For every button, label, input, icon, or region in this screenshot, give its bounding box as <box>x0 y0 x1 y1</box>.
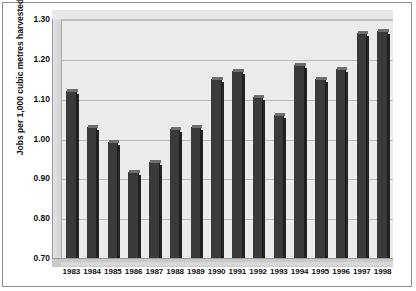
x-axis-tick-label: 1983 <box>62 267 80 276</box>
bar-body <box>357 33 367 258</box>
bar-body <box>170 129 180 258</box>
bar-top-face <box>67 89 77 92</box>
bar-side-face <box>326 82 328 258</box>
bar-top-face <box>275 113 285 116</box>
bar-1985[interactable] <box>108 142 118 258</box>
bar-1993[interactable] <box>274 115 284 258</box>
bar-body <box>211 79 221 258</box>
x-axis-tick-label: 1993 <box>270 267 288 276</box>
bar-side-face <box>305 68 307 258</box>
bar-1987[interactable] <box>149 162 159 258</box>
x-axis-tick-label: 1995 <box>311 267 329 276</box>
bar-top-face <box>233 69 243 72</box>
plot-top-wall <box>52 10 393 19</box>
bar-body <box>232 71 242 258</box>
bar-top-face <box>254 95 264 98</box>
bars-layer <box>61 19 393 258</box>
bar-side-face <box>139 175 141 258</box>
bar-body <box>315 79 325 258</box>
bar-top-face <box>192 125 202 128</box>
bar-side-face <box>180 132 182 258</box>
bar-1996[interactable] <box>336 69 346 258</box>
bar-1991[interactable] <box>232 71 242 258</box>
bar-1990[interactable] <box>211 79 221 258</box>
bar-side-face <box>97 130 99 258</box>
y-axis-tick-label: 0.70 <box>33 253 50 263</box>
y-axis-tick-label: 1.20 <box>33 54 50 64</box>
bar-side-face <box>118 145 120 258</box>
x-axis-tick-label: 1985 <box>104 267 122 276</box>
y-axis-tick-label: 1.10 <box>33 94 50 104</box>
bar-chart-figure: Jobs per 1,000 cubic metres harvested 1.… <box>0 0 416 291</box>
y-axis-tick-label: 0.80 <box>33 213 50 223</box>
y-axis-tick-labels: 1.301.201.101.000.900.800.70 <box>22 10 50 258</box>
bar-top-face <box>129 170 139 173</box>
bar-1997[interactable] <box>357 33 367 258</box>
bar-body <box>253 97 263 258</box>
bar-1994[interactable] <box>294 65 304 258</box>
x-axis-tick-label: 1997 <box>353 267 371 276</box>
x-axis-tick-label: 1986 <box>125 267 143 276</box>
bar-top-face <box>88 125 98 128</box>
bar-top-face <box>171 127 181 130</box>
y-axis-tick-label: 1.00 <box>33 134 50 144</box>
bar-side-face <box>367 36 369 258</box>
bar-1986[interactable] <box>128 172 138 258</box>
x-axis-tick-label: 1989 <box>187 267 205 276</box>
bar-1992[interactable] <box>253 97 263 258</box>
bar-body <box>336 69 346 258</box>
bar-top-face <box>337 67 347 70</box>
x-axis-tick-label: 1996 <box>332 267 350 276</box>
x-axis-tick-label: 1987 <box>145 267 163 276</box>
bar-body <box>66 91 76 258</box>
bar-side-face <box>346 72 348 258</box>
plot-floor-front <box>61 262 393 266</box>
bar-body <box>87 127 97 258</box>
bar-side-face <box>388 34 390 258</box>
x-axis-tick-label: 1984 <box>83 267 101 276</box>
bar-1998[interactable] <box>377 31 387 258</box>
bar-1984[interactable] <box>87 127 97 258</box>
bar-body <box>274 115 284 258</box>
bar-top-face <box>109 140 119 143</box>
bar-side-face <box>201 130 203 258</box>
x-axis-tick-label: 1988 <box>166 267 184 276</box>
bar-body <box>191 127 201 258</box>
bar-1988[interactable] <box>170 129 180 258</box>
bar-body <box>128 172 138 258</box>
x-axis-tick-labels: 1983198419851986198719881989199019911992… <box>61 267 393 281</box>
bar-1983[interactable] <box>66 91 76 258</box>
bar-top-face <box>212 77 222 80</box>
bar-body <box>294 65 304 258</box>
bar-top-face <box>295 63 305 66</box>
x-axis-tick-label: 1998 <box>374 267 392 276</box>
bar-top-face <box>150 160 160 163</box>
x-axis-tick-label: 1994 <box>291 267 309 276</box>
y-axis-tick-label: 0.90 <box>33 173 50 183</box>
bar-top-face <box>316 77 326 80</box>
bar-side-face <box>77 94 79 258</box>
x-axis-tick-label: 1991 <box>228 267 246 276</box>
y-axis-tick-label: 1.30 <box>33 14 50 24</box>
bar-side-face <box>222 82 224 258</box>
bar-top-face <box>358 31 368 34</box>
bar-1989[interactable] <box>191 127 201 258</box>
bar-body <box>108 142 118 258</box>
bar-side-face <box>243 74 245 258</box>
bar-body <box>377 31 387 258</box>
bar-side-face <box>284 118 286 258</box>
x-axis-tick-label: 1990 <box>208 267 226 276</box>
bar-1995[interactable] <box>315 79 325 258</box>
bar-side-face <box>160 165 162 258</box>
bar-body <box>149 162 159 258</box>
bar-top-face <box>378 29 388 32</box>
x-axis-tick-label: 1992 <box>249 267 267 276</box>
bar-side-face <box>263 100 265 258</box>
